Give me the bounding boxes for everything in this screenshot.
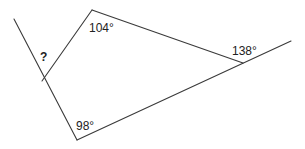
inner-left-side-line xyxy=(42,10,92,81)
geometry-diagram: ? 104° 138° 98° xyxy=(0,0,305,149)
unknown-angle-label: ? xyxy=(40,51,47,63)
top-side-line xyxy=(92,10,243,63)
right-angle-label: 138° xyxy=(232,45,257,57)
bottom-angle-label: 98° xyxy=(76,120,94,132)
top-angle-label: 104° xyxy=(89,22,114,34)
diagram-lines xyxy=(0,0,305,149)
left-ray-line xyxy=(14,19,77,140)
bottom-ray-line xyxy=(77,41,291,140)
